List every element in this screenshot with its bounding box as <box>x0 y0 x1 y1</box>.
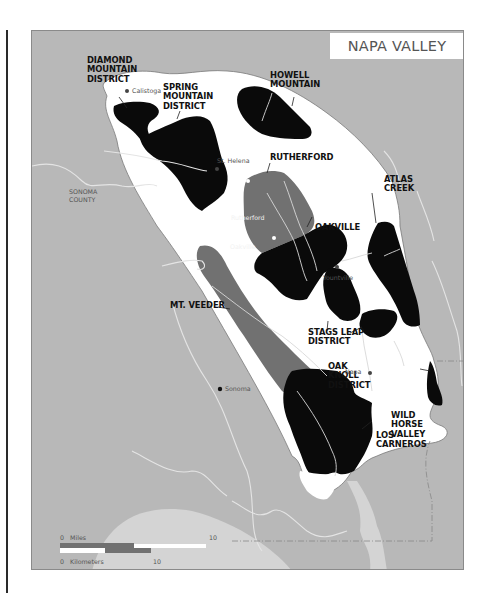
page-margin-rule <box>6 30 8 593</box>
label-diamond-mountain: DIAMOND MOUNTAIN DISTRICT <box>87 56 137 84</box>
town-yountville: Yountville <box>323 274 353 281</box>
map-canvas <box>32 31 464 570</box>
napa-river-estuary <box>347 481 387 570</box>
map-title: NAPA VALLEY <box>330 33 464 59</box>
valley-south-tip <box>299 471 337 499</box>
town-st-helena: St. Helena <box>217 157 250 164</box>
label-oak-knoll: OAK KNOLL DISTRICT <box>328 362 370 390</box>
label-sonoma-county: SONOMA COUNTY <box>69 188 97 204</box>
town-napa: Napa <box>345 368 361 375</box>
san-pablo-bay <box>92 509 292 570</box>
scale-km-zero: 0 <box>60 558 64 565</box>
label-atlas-creek: ATLAS CREEK <box>384 175 414 194</box>
town-sonoma: Sonoma <box>225 385 251 392</box>
label-rutherford: RUTHERFORD <box>270 153 333 162</box>
scale-km-label: Kilometers <box>70 558 104 565</box>
scale-km-max: 10 <box>153 558 161 565</box>
town-calistoga: Calistoga <box>132 87 161 94</box>
label-oakville: OAKVILLE <box>315 223 360 232</box>
label-mt-veeder: MT. VEEDER <box>170 301 225 310</box>
town-oakville: Oakville <box>230 243 255 250</box>
label-stags-leap: STAGS LEAP DISTRICT <box>308 328 364 347</box>
scale-miles-max: 10 <box>209 534 217 541</box>
label-los-carneros: LOS CARNEROS <box>376 431 427 450</box>
label-spring-mountain: SPRING MOUNTAIN DISTRICT <box>163 83 213 111</box>
scale-miles-zero: 0 <box>60 534 64 541</box>
scale-miles-label: Miles <box>70 534 86 541</box>
label-howell-mountain: HOWELL MOUNTAIN <box>270 71 320 90</box>
town-rutherford: Rutherford <box>231 214 265 221</box>
napa-valley-map: NAPA VALLEY DIAMOND MOUNTAIN DISTRICT SP… <box>31 30 464 570</box>
